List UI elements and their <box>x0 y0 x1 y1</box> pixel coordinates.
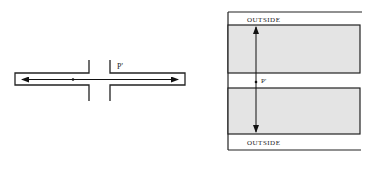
lower-slab <box>228 88 360 134</box>
left-channel-diagram: P' <box>15 60 185 101</box>
left-point-label: P' <box>117 62 123 71</box>
figure-canvas: P' P' OUTSIDE OUTSIDE <box>0 0 377 169</box>
right-slab-diagram: P' OUTSIDE OUTSIDE <box>228 12 362 150</box>
upper-slab <box>228 25 360 73</box>
bottom-outside-label: OUTSIDE <box>247 139 280 147</box>
left-channel-left-wall <box>15 60 89 101</box>
left-point-dot <box>72 78 75 81</box>
right-point-label: P' <box>261 77 266 85</box>
right-point-dot <box>255 81 258 84</box>
top-outside-label: OUTSIDE <box>247 16 280 24</box>
